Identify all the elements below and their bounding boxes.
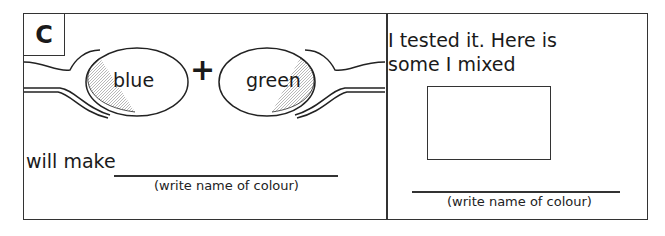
spoon-left-colour: blue: [113, 69, 154, 91]
spoon-left-icon: [24, 48, 188, 118]
spoon-right-icon: [219, 48, 385, 118]
spoon-right-colour: green: [246, 69, 301, 91]
plus-operator: +: [190, 52, 215, 87]
activity-label: C: [23, 13, 65, 56]
activity-label-text: C: [35, 21, 53, 49]
spoons-illustration: [0, 0, 665, 236]
